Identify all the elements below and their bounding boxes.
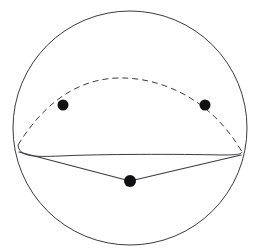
edge-bottom-to-right [130, 155, 241, 181]
vertex-left-point [58, 100, 69, 111]
sphere-outline-circle [13, 11, 247, 245]
vertex-bottom-point [124, 175, 136, 187]
sphere-diagram [0, 0, 259, 251]
front-great-circle-arc [18, 145, 242, 156]
hidden-great-circle-arc [18, 78, 242, 152]
sphere-diagram-canvas [0, 0, 259, 251]
edge-left-to-bottom [19, 152, 130, 181]
vertex-right-point [200, 100, 211, 111]
